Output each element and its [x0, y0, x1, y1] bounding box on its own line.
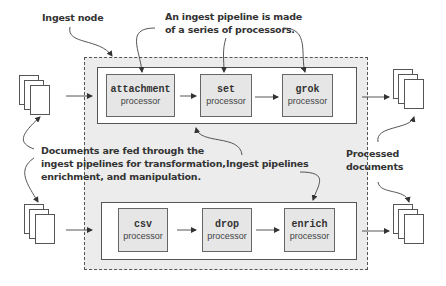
documents-fed-line2: ingest pipelines for transformation, — [41, 158, 226, 170]
ingest-node-label: Ingest node — [42, 12, 103, 24]
documents-fed-line1: Documents are fed through the — [41, 145, 204, 157]
pipeline-description-line1: An ingest pipeline is made — [165, 11, 302, 23]
ingest-pipelines-label: Ingest pipelines — [226, 158, 309, 170]
pipeline-description-line2: of a series of processors. — [165, 24, 295, 36]
connector-arrows — [0, 0, 446, 286]
processed-documents-line1: Processed — [346, 148, 399, 160]
ingest-diagram: attachment processor set processor grok … — [0, 0, 446, 286]
processed-documents-line2: documents — [346, 161, 403, 173]
documents-fed-line3: enrichment, and manipulation. — [41, 171, 201, 183]
